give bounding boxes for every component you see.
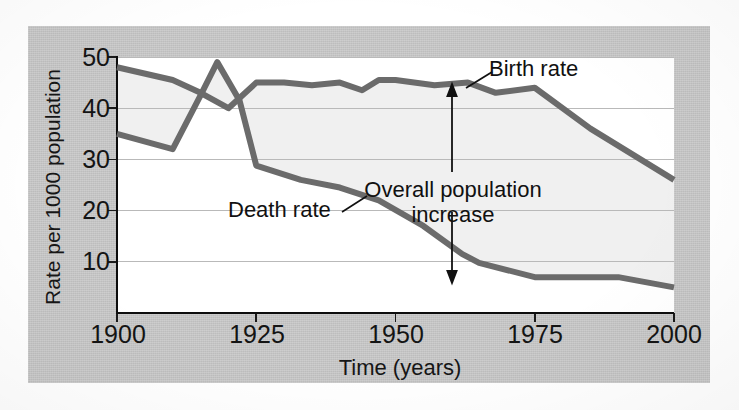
x-tick-label-1900: 1900	[72, 322, 164, 347]
chart-figure: 50 40 30 20 10 1900 1925 1950 1975 2000 …	[0, 0, 739, 410]
x-axis-title: Time (years)	[250, 355, 550, 381]
x-tick-label-1950: 1950	[350, 322, 442, 347]
birth-rate-series-label: Birth rate	[489, 57, 578, 82]
x-tick-label-1975: 1975	[489, 322, 581, 347]
overall-increase-line-2: increase	[343, 203, 563, 228]
y-axis-title: Rate per 1000 population	[41, 57, 65, 317]
overall-increase-line-1: Overall population	[364, 177, 541, 202]
death-rate-series-label: Death rate	[228, 198, 331, 223]
overall-population-increase-label: Overall population increase	[343, 178, 563, 227]
x-tick-label-2000: 2000	[628, 322, 720, 347]
x-tick-label-1925: 1925	[211, 322, 303, 347]
